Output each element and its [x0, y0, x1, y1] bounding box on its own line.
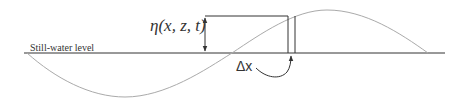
elevation-label: η(x, z, t)	[150, 16, 206, 36]
delta-x-label: Δx	[236, 58, 252, 74]
still-water-label: Still-water level	[30, 42, 94, 53]
delta-curved-arrow	[256, 56, 291, 77]
